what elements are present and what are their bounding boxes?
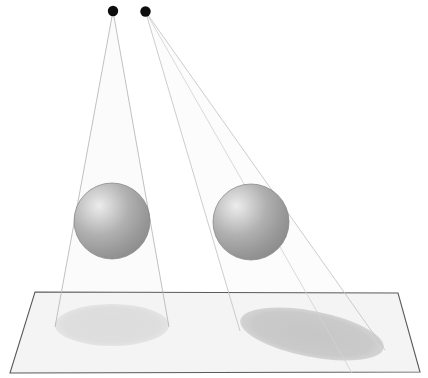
illustration-canvas — [0, 0, 428, 378]
sphere-right — [213, 184, 289, 260]
lighting-scene-svg — [0, 0, 428, 378]
light-source-left — [108, 6, 118, 16]
light-source-group — [108, 6, 151, 17]
sphere-left — [74, 183, 150, 259]
shadow-left — [55, 304, 169, 346]
light-source-right — [140, 6, 150, 16]
sphere-group — [74, 183, 289, 260]
light-cone-left — [55, 11, 169, 327]
